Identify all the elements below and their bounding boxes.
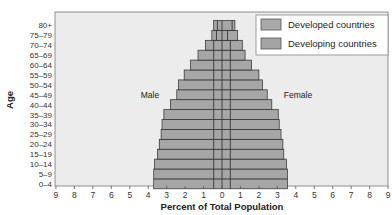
female-label: Female xyxy=(284,90,313,100)
bar-40–44 xyxy=(170,100,271,110)
y-axis-title: Age xyxy=(4,91,15,109)
x-tick-label: 2 xyxy=(257,190,262,200)
legend-label-developed: Developed countries xyxy=(288,19,375,30)
population-pyramid-chart: 0–45–910–1415–1920–2425–2930–3435–3940–4… xyxy=(0,0,392,215)
x-tick-label: 7 xyxy=(349,190,354,200)
y-tick-label: 45–49 xyxy=(30,91,53,100)
x-tick-label: 1 xyxy=(201,190,206,200)
legend-swatch-developing xyxy=(261,38,281,49)
y-tick-label: 0–4 xyxy=(39,180,53,189)
bar-80+ xyxy=(214,21,235,31)
bar-70–74 xyxy=(205,40,242,50)
x-tick-label: 5 xyxy=(127,190,132,200)
bar-0–4 xyxy=(154,179,288,189)
y-tick-label: 5–9 xyxy=(39,170,53,179)
y-tick-label: 60–64 xyxy=(30,61,53,70)
y-axis-tick-labels: 0–45–910–1415–1920–2425–2930–3435–3940–4… xyxy=(30,21,53,188)
x-tick-label: 3 xyxy=(164,190,169,200)
bar-20–24 xyxy=(159,139,283,149)
x-tick-label: 0 xyxy=(220,190,225,200)
y-tick-label: 55–59 xyxy=(30,71,53,80)
y-tick-label: 10–14 xyxy=(30,160,53,169)
x-tick-label: 1 xyxy=(238,190,243,200)
bar-10–14 xyxy=(155,159,287,169)
legend-swatch-developed xyxy=(261,19,281,30)
y-tick-label: 75–79 xyxy=(30,31,53,40)
bar-65–69 xyxy=(198,50,245,60)
bar-30–34 xyxy=(162,120,279,130)
x-tick-label: 8 xyxy=(72,190,77,200)
x-tick-label: 9 xyxy=(54,190,59,200)
male-label: Male xyxy=(141,90,160,100)
bar-75–79 xyxy=(212,30,238,40)
x-tick-label: 5 xyxy=(312,190,317,200)
y-tick-label: 50–54 xyxy=(30,81,53,90)
bar-50–54 xyxy=(179,80,263,90)
bar-55–59 xyxy=(184,70,259,80)
legend-label-developing: Developing countries xyxy=(288,38,377,49)
x-tick-label: 6 xyxy=(330,190,335,200)
x-tick-label: 3 xyxy=(275,190,280,200)
x-axis-title: Percent of Total Population xyxy=(161,201,284,212)
bar-35–39 xyxy=(164,110,278,120)
x-tick-label: 2 xyxy=(183,190,188,200)
x-tick-label: 4 xyxy=(293,190,298,200)
bar-15–19 xyxy=(157,149,283,159)
y-tick-label: 25–29 xyxy=(30,130,53,139)
y-tick-label: 15–19 xyxy=(30,150,53,159)
x-tick-label: 7 xyxy=(90,190,95,200)
y-tick-label: 30–34 xyxy=(30,120,53,129)
x-tick-label: 8 xyxy=(367,190,372,200)
x-tick-label: 6 xyxy=(109,190,114,200)
y-tick-label: 70–74 xyxy=(30,41,53,50)
y-tick-label: 40–44 xyxy=(30,101,53,110)
y-tick-label: 65–69 xyxy=(30,51,53,60)
y-tick-label: 80+ xyxy=(38,21,52,30)
y-tick-label: 20–24 xyxy=(30,140,53,149)
bar-5–9 xyxy=(154,169,288,179)
legend: Developed countries Developing countries xyxy=(256,15,388,55)
x-tick-label: 9 xyxy=(386,190,391,200)
y-tick-label: 35–39 xyxy=(30,111,53,120)
x-tick-label: 4 xyxy=(146,190,151,200)
x-axis-ticks: 9876543210123456789 xyxy=(54,186,391,200)
bar-25–29 xyxy=(161,129,281,139)
bar-60–64 xyxy=(191,60,252,70)
